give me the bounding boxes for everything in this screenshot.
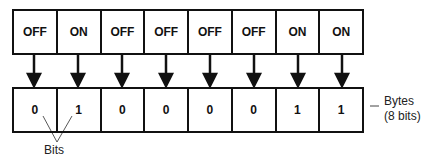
down-arrow-icon [292,55,304,86]
down-arrow-icon [160,55,172,86]
bytes-label-line1: Bytes [384,94,421,109]
bit-cell: 0 [14,89,58,131]
down-arrow-icon [248,55,260,86]
down-arrow-icon [116,55,128,86]
down-arrow-icon [204,55,216,86]
down-arrow-icon [336,55,348,86]
down-arrow-icon [72,55,84,86]
bit-cell: 1 [320,89,362,131]
bit-cell: 1 [58,89,102,131]
down-arrow-icon [28,55,40,86]
bits-label: Bits [44,143,64,157]
bytes-label-line2: (8 bits) [384,109,421,124]
bit-cell: 1 [277,89,321,131]
bytes-label: Bytes (8 bits) [384,94,421,124]
bit-cell: 0 [189,89,233,131]
bit-cell: 0 [102,89,146,131]
arrows-layer [0,0,425,165]
bit-cell: 0 [233,89,277,131]
bit-cell: 0 [145,89,189,131]
bit-row: 0 1 0 0 0 0 1 1 [12,87,364,133]
